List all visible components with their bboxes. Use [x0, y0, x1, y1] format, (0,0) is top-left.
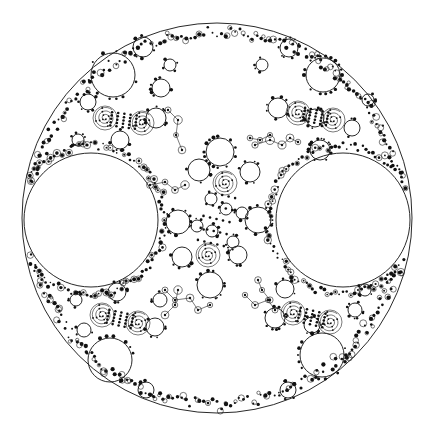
bead	[71, 328, 73, 330]
tendril-bead	[257, 279, 259, 281]
bead	[116, 149, 118, 151]
bead	[297, 354, 299, 356]
bead	[338, 63, 340, 65]
spiral-bead	[144, 130, 146, 132]
lattice-bead	[135, 118, 138, 121]
bead	[145, 168, 148, 171]
spiral-bead	[333, 120, 335, 122]
lattice-bead	[326, 118, 329, 121]
spiral-bead	[330, 322, 332, 324]
bead	[248, 206, 252, 210]
bead	[161, 246, 164, 249]
spiral-bead	[209, 259, 211, 261]
spiral-bead	[210, 262, 212, 264]
bead	[63, 149, 66, 152]
bead	[166, 213, 168, 215]
lattice-bead	[302, 321, 305, 324]
bead	[43, 161, 45, 163]
bead	[329, 56, 333, 60]
spiral-bead	[140, 119, 142, 121]
bead	[217, 226, 220, 229]
bead	[90, 351, 93, 354]
lattice-bead	[301, 119, 304, 122]
bead	[278, 394, 280, 396]
bead	[393, 168, 397, 172]
bead	[358, 293, 361, 296]
spiral-bead	[288, 115, 290, 117]
bead	[289, 37, 291, 39]
bead	[307, 109, 310, 112]
bead	[280, 95, 284, 99]
bead	[285, 259, 288, 262]
bead	[371, 93, 374, 96]
bead	[74, 306, 77, 309]
bead	[162, 67, 165, 70]
bead	[211, 135, 215, 139]
lattice-bead	[130, 324, 133, 327]
lattice-bead	[203, 240, 206, 243]
lattice-bead	[322, 323, 325, 326]
spiral-bead	[330, 113, 332, 115]
bead	[223, 282, 226, 285]
lattice-bead	[319, 123, 322, 126]
bead	[129, 279, 132, 282]
bead	[113, 280, 116, 283]
bead	[31, 171, 33, 173]
bead	[228, 259, 230, 261]
spiral-bead	[331, 326, 333, 328]
lattice-bead	[106, 318, 109, 321]
bead	[34, 266, 37, 269]
bead	[194, 396, 197, 399]
lattice-bead	[134, 128, 137, 131]
spiral-bead	[320, 324, 322, 326]
lattice-bead	[116, 118, 119, 121]
bead	[134, 36, 138, 40]
bead	[145, 268, 148, 271]
bead	[322, 370, 324, 372]
bead	[375, 283, 377, 285]
bead	[267, 203, 270, 206]
bead	[334, 364, 338, 368]
bead	[207, 26, 210, 29]
bead	[173, 69, 176, 72]
bead	[384, 154, 386, 156]
lattice-bead	[118, 321, 121, 324]
bead	[75, 131, 78, 134]
spiral-bead	[296, 109, 298, 111]
spiral-bead	[215, 185, 217, 187]
bead	[195, 278, 198, 281]
bead	[81, 108, 83, 110]
spiral-bead	[99, 120, 101, 122]
bead	[103, 69, 106, 72]
bead	[330, 292, 333, 295]
spiral-bead	[100, 311, 102, 313]
spiral-bead	[134, 312, 136, 314]
bead	[402, 258, 405, 261]
lattice-bead	[116, 122, 119, 125]
bead	[157, 200, 161, 204]
bead	[348, 303, 350, 305]
bead	[274, 118, 277, 121]
bead	[92, 61, 94, 63]
bead	[345, 290, 348, 293]
bead	[212, 32, 214, 34]
lattice-bead	[124, 322, 127, 325]
lattice-bead	[317, 314, 320, 317]
lattice-bead	[324, 313, 327, 316]
bead	[287, 164, 290, 167]
bead	[314, 159, 316, 161]
bead	[65, 321, 67, 323]
spiral-bead	[144, 319, 146, 321]
spiral-bead	[101, 107, 103, 109]
bead	[215, 297, 217, 299]
bead	[127, 152, 131, 156]
spiral-bead	[290, 306, 292, 308]
spiral-bead	[95, 120, 97, 122]
bead	[350, 294, 352, 296]
bead	[377, 307, 379, 309]
bead	[90, 295, 93, 298]
bead	[156, 336, 158, 338]
spiral-bead	[295, 113, 297, 115]
tendril-bead	[167, 109, 169, 111]
bead	[160, 229, 164, 233]
